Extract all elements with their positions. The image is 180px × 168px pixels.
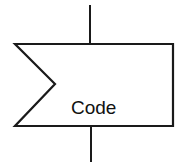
label-line-1: Code	[71, 96, 138, 120]
code-block-label: Code /* from Panel */	[71, 48, 138, 168]
flowchart-diagram: Code /* from Panel */	[0, 0, 180, 168]
